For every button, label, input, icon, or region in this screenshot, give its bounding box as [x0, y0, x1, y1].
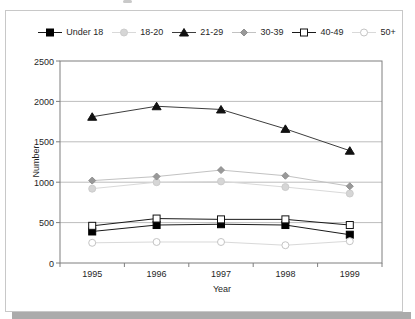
data-point-40-49 — [153, 215, 160, 222]
data-point-18-20 — [89, 185, 96, 192]
x-tick-label: 1998 — [263, 269, 307, 279]
data-point-50 — [282, 242, 289, 249]
y-tick-label: 0 — [10, 259, 54, 269]
y-tick-label: 1500 — [10, 137, 54, 147]
data-point-18-20 — [346, 190, 353, 197]
data-point-50 — [89, 239, 96, 246]
data-point-40-49 — [282, 216, 289, 223]
data-point-50 — [153, 238, 160, 245]
plot-area — [6, 11, 402, 311]
y-axis-title: Number — [31, 142, 42, 182]
data-point-18-20 — [282, 184, 289, 191]
x-tick-label: 1995 — [70, 269, 114, 279]
x-tick-label: 1996 — [135, 269, 179, 279]
data-point-40-49 — [218, 216, 225, 223]
data-point-50 — [346, 238, 353, 245]
data-point-40-49 — [89, 222, 96, 229]
x-tick-label: 1997 — [199, 269, 243, 279]
frame-drop-shadow — [12, 312, 411, 319]
y-tick-label: 1000 — [10, 178, 54, 188]
y-tick-label: 2500 — [10, 57, 54, 67]
data-point-18-20 — [218, 178, 225, 185]
data-point-50 — [218, 238, 225, 245]
chart-frame: Under 1818-2021-2930-3940-4950+ Number Y… — [5, 10, 403, 312]
data-point-40-49 — [346, 222, 353, 229]
data-point-under-18 — [153, 222, 160, 229]
y-tick-label: 2000 — [10, 97, 54, 107]
x-tick-label: 1999 — [328, 269, 372, 279]
screenshot-canvas: Under 1818-2021-2930-3940-4950+ Number Y… — [0, 0, 415, 319]
screenshot-artifact — [123, 0, 132, 3]
y-tick-label: 500 — [10, 218, 54, 228]
x-axis-title: Year — [192, 284, 252, 294]
data-point-under-18 — [346, 231, 353, 238]
